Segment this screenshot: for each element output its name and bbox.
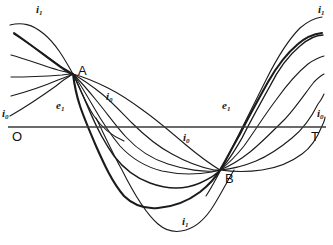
label-i0-upper-mid: i0 (106, 91, 113, 102)
curve-deep-i1 (96, 118, 234, 231)
curve-group-right-fan (220, 33, 325, 172)
curve-a5 (11, 74, 220, 170)
label-i0-left-axis: i0 (2, 108, 9, 119)
label-i1-bottom: i1 (182, 216, 189, 227)
label-point-b: B (225, 172, 234, 185)
label-point-a: A (78, 64, 87, 77)
label-e1-left: e1 (56, 100, 64, 111)
label-i0-right-axis: i0 (317, 108, 324, 119)
curve-a3 (11, 55, 220, 174)
label-axis-end: T (311, 130, 319, 143)
label-i0-center: i0 (183, 132, 190, 143)
curve-diagram-canvas (0, 0, 333, 245)
label-i1-top-right: i1 (318, 4, 325, 15)
curve-right-b6-i0 (220, 117, 325, 172)
curve-group-deep-valley (96, 17, 322, 231)
curve-group-left-fan (10, 24, 220, 208)
label-e1-right: e1 (222, 100, 230, 111)
label-i1-top-left: i1 (36, 4, 43, 15)
figure-root: i1 i0 e1 i0 i0 e1 i1 i0 i1 A B O T (0, 0, 333, 245)
label-axis-origin: O (12, 130, 22, 143)
curve-a2 (14, 34, 220, 188)
curve-e1-bold (14, 33, 220, 208)
